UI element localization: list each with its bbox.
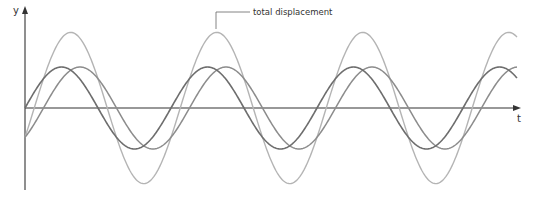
annotation-leader-line — [216, 12, 250, 29]
x-axis-arrow-icon — [513, 105, 521, 111]
x-axis-label: t — [517, 113, 521, 124]
annotation: total displacement — [216, 7, 333, 29]
annotation-label: total displacement — [253, 7, 333, 17]
axes: y t — [13, 5, 521, 190]
y-axis-arrow-icon — [22, 6, 28, 14]
wave-superposition-diagram: y t total displacement — [0, 0, 534, 199]
y-axis-label: y — [13, 5, 19, 16]
